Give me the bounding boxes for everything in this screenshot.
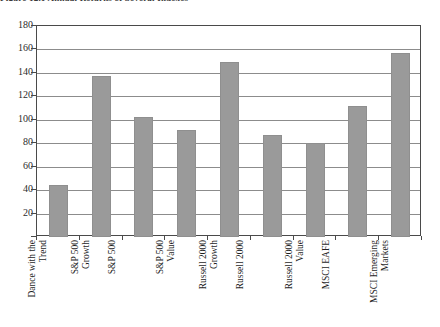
bar [177,130,196,237]
x-tick-mark [421,236,422,240]
x-tick-label: Russell 2000 Value [284,240,305,324]
x-tick-label: MSCI EAFE [321,240,332,324]
bar [134,117,153,237]
y-tick-label-160: 160 [3,43,33,53]
x-tick-label: MSCI Emerging Markets [369,240,390,324]
bar [220,62,239,237]
x-tick-mark [250,236,251,240]
y-tick-label-80: 80 [3,137,33,147]
bar [92,76,111,237]
x-tick-label: Russell 2000 [235,240,246,324]
x-tick-label: S&P 500 [107,240,118,324]
bar [263,135,282,237]
x-tick-label: S&P 500 Growth [70,240,91,324]
bar [348,106,367,237]
y-tick-label-140: 140 [3,67,33,77]
bar-chart: 18016014012010080604020 Dance with the T… [0,0,440,327]
x-tick-label: Russell 2000 Growth [198,240,219,324]
y-tick-label-120: 120 [3,90,33,100]
y-tick-label-20: 20 [3,208,33,218]
x-tick-mark [122,236,123,240]
plot-area [36,25,421,236]
y-tick-label-100: 100 [3,114,33,124]
x-tick-label: S&P 500 Value [155,240,176,324]
y-tick-label-40: 40 [3,184,33,194]
y-tick-label-180: 180 [3,20,33,30]
gridline-160 [37,49,420,50]
bar [49,185,68,237]
bar [391,53,410,237]
y-tick-label-60: 60 [3,161,33,171]
x-tick-mark [335,236,336,240]
bar [306,143,325,237]
x-tick-label: Dance with the Trend [27,240,48,324]
